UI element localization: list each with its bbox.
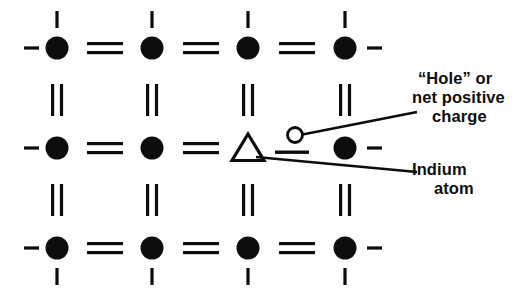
silicon-atom <box>237 37 260 60</box>
bond-stub-tick <box>246 11 249 28</box>
silicon-atom <box>46 237 69 260</box>
silicon-atom <box>141 237 164 260</box>
bond-stub-dash <box>367 246 382 249</box>
bond-stub-tick <box>343 11 346 28</box>
double-bond-horizontal <box>183 142 219 154</box>
silicon-atom <box>46 37 69 60</box>
bond-stub-tick <box>343 268 346 285</box>
double-bond-horizontal <box>87 242 123 254</box>
hole-label-line-1: “Hole” or <box>410 69 525 88</box>
double-bond-vertical <box>146 184 158 216</box>
indium-leader-line <box>256 157 417 172</box>
hole-label-line-2: net positive <box>410 88 525 107</box>
silicon-atom <box>141 137 164 160</box>
bond-stub-tick <box>246 268 249 285</box>
lattice-drawing <box>0 0 529 302</box>
double-bond-vertical <box>146 84 158 116</box>
double-bond-horizontal <box>183 42 219 54</box>
bottom-edge-ticks <box>55 268 346 285</box>
hole-circle <box>288 128 303 143</box>
silicon-atom <box>334 137 357 160</box>
bond-stub-dash <box>367 46 382 49</box>
vertical-bonds-upper <box>51 84 351 116</box>
silicon-atom <box>237 237 260 260</box>
double-bond-horizontal <box>87 42 123 54</box>
double-bond-vertical <box>339 84 351 116</box>
silicon-atom <box>46 137 69 160</box>
indium-label-line-2: atom <box>412 179 527 198</box>
double-bond-vertical <box>242 84 254 116</box>
hole-label: “Hole” or net positive charge <box>410 69 525 126</box>
lattice-row-bottom <box>24 237 382 286</box>
indium-label-line-1: Indium <box>412 160 527 179</box>
double-bond-vertical <box>242 184 254 216</box>
top-edge-ticks <box>55 11 346 28</box>
lattice-row-top <box>24 11 382 60</box>
silicon-atom <box>334 237 357 260</box>
lattice-row-middle <box>24 134 382 161</box>
double-bond-horizontal <box>87 142 123 154</box>
bond-stub-dash <box>24 246 39 249</box>
double-bond-vertical <box>51 84 63 116</box>
single-bond-horizontal <box>275 151 309 154</box>
bond-stub-tick <box>150 11 153 28</box>
double-bond-horizontal <box>279 42 315 54</box>
bond-stub-tick <box>150 268 153 285</box>
bond-stub-dash <box>24 46 39 49</box>
semiconductor-lattice-figure: “Hole” or net positive charge Indium ato… <box>0 0 529 302</box>
indium-label: Indium atom <box>412 160 527 198</box>
silicon-atom <box>141 37 164 60</box>
double-bond-vertical <box>339 184 351 216</box>
hole-leader-line <box>303 112 418 135</box>
bond-stub-tick <box>55 268 58 285</box>
vertical-bonds-lower <box>51 184 351 216</box>
silicon-atom <box>334 37 357 60</box>
double-bond-vertical <box>51 184 63 216</box>
bond-stub-dash <box>367 146 382 149</box>
hole-label-line-3: charge <box>410 107 525 126</box>
bond-stub-dash <box>24 146 39 149</box>
double-bond-horizontal <box>183 242 219 254</box>
double-bond-horizontal <box>279 242 315 254</box>
bond-stub-tick <box>55 11 58 28</box>
